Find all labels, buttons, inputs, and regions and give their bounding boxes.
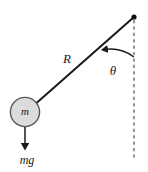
- pendulum-diagram-svg: R m mg θ: [0, 0, 148, 172]
- physics-diagram-canvas: R m mg θ: [0, 0, 148, 172]
- angle-theta-label: θ: [110, 63, 117, 78]
- mass-label: m: [21, 105, 29, 117]
- pivot-point-dot: [131, 14, 136, 19]
- diagram-background: [0, 0, 148, 172]
- rod-length-label: R: [62, 51, 71, 66]
- weight-force-label: mg: [20, 153, 35, 167]
